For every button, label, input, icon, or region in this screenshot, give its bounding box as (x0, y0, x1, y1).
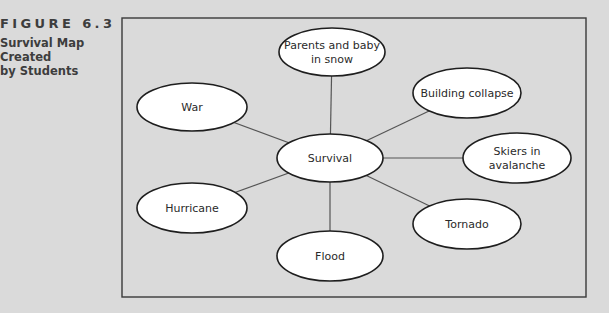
node-label: Tornado (444, 218, 489, 231)
node-label: Skiers in (494, 145, 541, 158)
node-parents: Parents and babyin snow (279, 28, 385, 76)
node-building: Building collapse (413, 68, 521, 118)
node-label: Flood (315, 250, 345, 263)
node-label: Building collapse (420, 87, 513, 100)
nodes: SurvivalParents and babyin snowBuilding … (137, 28, 571, 281)
node-ellipse (279, 28, 385, 76)
node-hurricane: Hurricane (137, 183, 247, 233)
node-flood: Flood (277, 231, 383, 281)
node-label: War (181, 101, 203, 114)
node-tornado: Tornado (413, 199, 521, 249)
node-war: War (137, 83, 247, 131)
node-skiers: Skiers inavalanche (463, 133, 571, 183)
survival-concept-map: SurvivalParents and babyin snowBuilding … (0, 0, 609, 320)
node-label: avalanche (489, 159, 546, 172)
node-label: Hurricane (165, 202, 219, 215)
node-survival: Survival (277, 134, 383, 182)
node-label: Parents and baby (284, 39, 380, 52)
node-label: in snow (311, 53, 353, 66)
node-ellipse (463, 133, 571, 183)
node-label: Survival (308, 152, 352, 165)
